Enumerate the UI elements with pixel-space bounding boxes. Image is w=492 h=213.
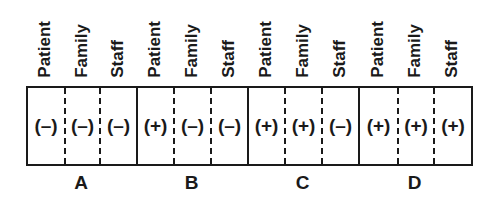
- cell-c-staff: (–): [323, 88, 358, 164]
- header-family-group-a: Family: [69, 14, 95, 78]
- header-label: Patient: [34, 21, 56, 78]
- header-staff-group-d: Staff: [439, 14, 465, 78]
- cell-a-staff: (–): [101, 88, 136, 164]
- cell-b-staff: (–): [212, 88, 247, 164]
- header-label: Patient: [367, 21, 389, 78]
- header-label: Patient: [144, 21, 166, 78]
- cell-b-family: (–): [175, 88, 210, 164]
- header-label: Staff: [441, 40, 463, 78]
- group-label-b: B: [172, 172, 212, 194]
- cell-d-patient: (+): [360, 88, 397, 164]
- response-grid: (–)(–)(–)(+)(–)(–)(+)(+)(–)(+)(+)(+): [26, 86, 473, 166]
- header-label: Family: [404, 24, 426, 78]
- header-family-group-c: Family: [290, 14, 316, 78]
- header-staff-group-b: Staff: [216, 14, 242, 78]
- cell-c-patient: (+): [249, 88, 284, 164]
- cell-a-family: (–): [66, 88, 99, 164]
- header-label: Family: [71, 24, 93, 78]
- cell-c-family: (+): [286, 88, 321, 164]
- header-label: Staff: [329, 40, 351, 78]
- header-patient-group-b: Patient: [142, 14, 168, 78]
- header-patient-group-c: Patient: [253, 14, 279, 78]
- header-label: Patient: [255, 21, 277, 78]
- header-label: Family: [181, 24, 203, 78]
- header-label: Staff: [218, 40, 240, 78]
- header-label: Staff: [107, 40, 129, 78]
- group-label-a: A: [61, 172, 101, 194]
- header-staff-group-c: Staff: [327, 14, 353, 78]
- header-label: Family: [292, 24, 314, 78]
- group-label-c: C: [283, 172, 323, 194]
- header-family-group-d: Family: [402, 14, 428, 78]
- header-staff-group-a: Staff: [105, 14, 131, 78]
- cell-d-staff: (+): [435, 88, 471, 164]
- cell-d-family: (+): [399, 88, 433, 164]
- header-patient-group-d: Patient: [365, 14, 391, 78]
- header-patient-group-a: Patient: [32, 14, 58, 78]
- header-family-group-b: Family: [179, 14, 205, 78]
- cell-b-patient: (+): [138, 88, 173, 164]
- cell-a-patient: (–): [28, 88, 64, 164]
- group-label-d: D: [395, 172, 435, 194]
